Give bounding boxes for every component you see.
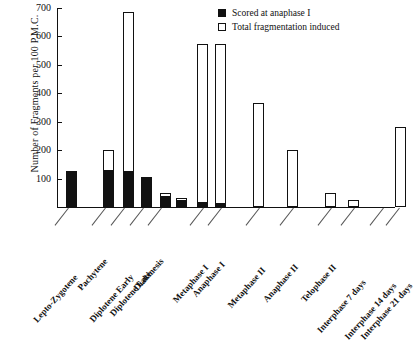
legend-label-total: Total fragmentation induced [232,20,340,34]
bar-total-segment [253,103,264,207]
legend-swatch-filled-icon [218,9,226,17]
tick-leader-line [190,208,204,226]
bar-total-segment [395,127,406,207]
y-tick-300 [57,122,62,123]
tick-leader-line [92,208,106,226]
bar-total-segment [197,44,208,207]
legend-item-scored: Scored at anaphase I [218,6,340,20]
legend-swatch-open-icon [218,23,226,31]
tick-leader-line [318,208,332,226]
y-tick-400 [57,93,62,94]
bar-total-segment [287,150,298,207]
y-tick-label-500: 500 [21,60,51,70]
bar-scored-segment [141,177,152,207]
tick-leader-line [280,208,294,226]
bar-total-segment [325,193,336,207]
x-category-label-telophase-ii: Telophase II [299,263,338,305]
y-tick-label-200: 200 [21,145,51,155]
bar-scored-segment [176,200,187,207]
x-category-label-anaphase-ii: Anaphase II [261,262,300,304]
plot-area: 100200300400500600700 [57,8,395,207]
legend-label-scored: Scored at anaphase I [232,6,310,20]
y-tick-label-700: 700 [21,3,51,13]
bar-scored-segment [103,170,114,207]
tick-leader-line [246,208,260,226]
tick-leader-line [370,208,384,226]
x-category-label-diakinesis: Diakinesis [132,257,166,293]
tick-leader-line [341,208,355,226]
legend-item-total: Total fragmentation induced [218,20,340,34]
bar-total-segment [215,44,226,207]
tick-leader-line [208,208,222,226]
y-tick-label-400: 400 [21,88,51,98]
bar-total-segment [348,200,359,207]
y-tick-700 [57,8,62,9]
x-category-label-lepto-zygotene: Lepto-Zygotene [32,273,80,325]
y-tick-500 [57,65,62,66]
y-tick-600 [57,36,62,37]
tick-leader-line [130,208,144,226]
y-tick-label-300: 300 [21,117,51,127]
x-axis-line [57,207,395,208]
x-category-label-metaphase-ii: Metaphase II [226,265,268,310]
x-category-label-pachytene: Pachytene [76,257,110,293]
bar-scored-segment [66,171,77,207]
y-axis-line [57,8,58,207]
chart-legend: Scored at anaphase I Total fragmentation… [218,6,340,34]
y-tick-label-100: 100 [21,174,51,184]
y-tick-200 [57,150,62,151]
bar-scored-segment [160,196,171,207]
tick-leader-line [148,208,162,226]
tick-leader-line [55,208,69,226]
y-tick-label-600: 600 [21,31,51,41]
tick-leader-line [386,208,400,226]
bar-scored-segment [123,171,134,207]
y-tick-100 [57,179,62,180]
tick-leader-line [111,208,125,226]
